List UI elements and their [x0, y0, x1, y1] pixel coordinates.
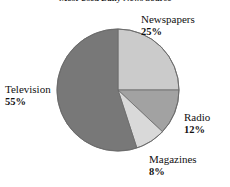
slice-label-newspapers: Newspapers 25%: [141, 14, 195, 37]
slice-label-magazines-percent: 8%: [149, 166, 197, 178]
slice-label-magazines-name: Magazines: [149, 154, 197, 166]
slice-label-television: Television 55%: [5, 84, 51, 107]
pie-slices-group: [57, 29, 179, 151]
slice-label-newspapers-name: Newspapers: [141, 14, 195, 26]
slice-label-newspapers-percent: 25%: [141, 26, 195, 38]
pie-slice-newspapers: [118, 29, 179, 90]
slice-label-television-percent: 55%: [5, 96, 51, 108]
slice-label-magazines: Magazines 8%: [149, 154, 197, 177]
slice-label-radio-percent: 12%: [184, 124, 210, 136]
slice-label-radio: Radio 12%: [184, 112, 210, 135]
slice-label-television-name: Television: [5, 84, 51, 96]
slice-label-radio-name: Radio: [184, 112, 210, 124]
pie-chart-figure: Most Used Daily News Source Newspapers 2…: [0, 0, 230, 187]
